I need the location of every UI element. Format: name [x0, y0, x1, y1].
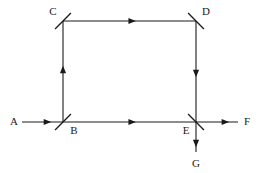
- node-label-c: C: [49, 5, 56, 17]
- optics-diagram: ABCDEFG: [0, 0, 259, 173]
- node-label-a: A: [10, 115, 18, 127]
- arrow-head-b-to-c: [60, 66, 66, 74]
- arrow-head-b-to-e: [128, 119, 136, 125]
- node-label-f: F: [244, 115, 250, 127]
- arrow-head-e-to-g: [193, 140, 199, 148]
- arrow-head-c-to-d: [128, 18, 136, 24]
- node-label-b: B: [70, 124, 77, 136]
- node-labels-group: ABCDEFG: [10, 5, 250, 169]
- node-label-g: G: [192, 157, 200, 169]
- optical-elements-group: [55, 13, 204, 130]
- arrow-head-a-to-b: [44, 119, 52, 125]
- arrow-head-d-to-e: [193, 70, 199, 78]
- node-label-d: D: [202, 5, 210, 17]
- beam-paths-group: [22, 18, 238, 152]
- arrow-head-e-to-f: [222, 119, 230, 125]
- node-label-e: E: [183, 124, 190, 136]
- diagram-canvas: ABCDEFG: [0, 0, 259, 173]
